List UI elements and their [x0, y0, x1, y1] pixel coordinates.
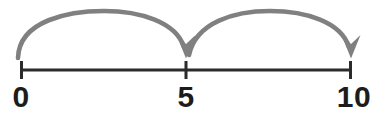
- jump-arc-5-to-10: [189, 11, 349, 55]
- tick-label-0: 0: [12, 82, 29, 112]
- tick-label-10: 10: [337, 82, 371, 112]
- tick-label-5: 5: [177, 82, 194, 112]
- jump-arc-0-to-5: [18, 11, 184, 58]
- jump-arrowhead-10: [342, 35, 361, 59]
- number-line-figure: 0 5 10: [0, 0, 378, 113]
